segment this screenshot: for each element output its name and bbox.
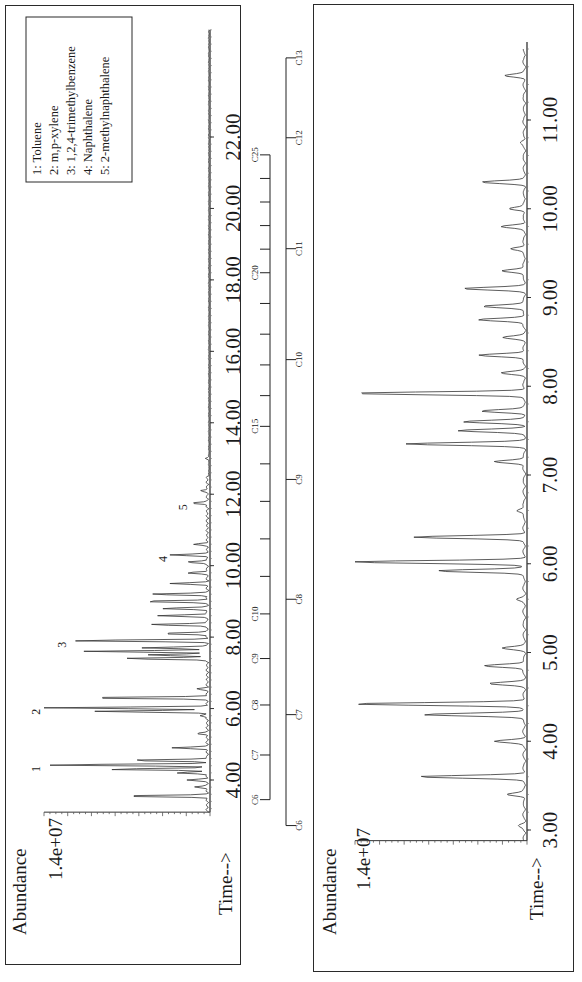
right-carbon-label-C13: C13 bbox=[294, 50, 304, 66]
left-carbon-label-C9: C9 bbox=[250, 653, 260, 664]
right-time-tick-label: 11.00 bbox=[538, 97, 562, 143]
left-time-tick-label: 12.00 bbox=[221, 471, 245, 518]
left-carbon-label-C10: C10 bbox=[250, 606, 260, 622]
left-carbon-label-C8: C8 bbox=[250, 699, 260, 710]
chromatogram-figure: Abundance 1.4e+07 Time--> 1: Toluene 2: … bbox=[0, 0, 582, 982]
left-time-tick-label: 22.00 bbox=[221, 113, 245, 160]
left-carbon-label-C6: C6 bbox=[250, 794, 260, 805]
right-time-tick-label: 6.00 bbox=[538, 545, 562, 582]
left-ymax-label: 1.4e+07 bbox=[45, 818, 66, 880]
right-carbon-label-C12: C12 bbox=[294, 130, 304, 145]
legend-item-5: 5: 2-methylnaphthalene bbox=[98, 56, 112, 175]
right-abundance-label: Abundance bbox=[319, 848, 340, 935]
left-time-tick-label: 10.00 bbox=[221, 542, 245, 589]
right-chromatogram-trace bbox=[355, 49, 526, 841]
left-carbon-label-C25: C25 bbox=[250, 147, 260, 163]
legend-item-4: 4: Naphthalene bbox=[81, 99, 95, 175]
right-carbon-label-C9: C9 bbox=[294, 474, 304, 485]
right-time-tick-label: 9.00 bbox=[538, 279, 562, 316]
right-time-tick-label: 4.00 bbox=[538, 723, 562, 760]
left-time-label: Time--> bbox=[215, 852, 236, 915]
left-time-tick-label: 8.00 bbox=[221, 619, 245, 656]
left-time-tick-label: 6.00 bbox=[221, 690, 245, 727]
left-carbon-label-C15: C15 bbox=[250, 418, 260, 434]
right-carbon-label-C6: C6 bbox=[294, 820, 304, 831]
left-carbon-label-C7: C7 bbox=[250, 749, 260, 760]
peak-label-2: 2 bbox=[29, 709, 43, 715]
right-ymax-label: 1.4e+07 bbox=[353, 828, 374, 890]
peak-label-3: 3 bbox=[55, 642, 69, 648]
left-abundance-label: Abundance bbox=[9, 848, 30, 935]
right-time-tick-label: 5.00 bbox=[538, 634, 562, 671]
right-carbon-label-C10: C10 bbox=[294, 352, 304, 368]
right-carbon-label-C7: C7 bbox=[294, 709, 304, 720]
legend-item-3: 3: 1,2,4-trimethylbenzene bbox=[64, 46, 78, 175]
right-carbon-label-C11: C11 bbox=[294, 241, 304, 256]
left-carbon-label-C20: C20 bbox=[250, 265, 260, 281]
peak-label-5: 5 bbox=[176, 504, 190, 510]
left-time-tick-label: 14.00 bbox=[221, 399, 245, 446]
left-time-tick-label: 16.00 bbox=[221, 328, 245, 375]
peak-label-4: 4 bbox=[156, 556, 170, 562]
left-time-tick-label: 18.00 bbox=[221, 256, 245, 303]
right-time-tick-label: 8.00 bbox=[538, 368, 562, 405]
right-carbon-label-C8: C8 bbox=[294, 594, 304, 605]
legend-item-2: 2: m,p-xylene bbox=[47, 105, 61, 175]
legend: 1: Toluene 2: m,p-xylene 3: 1,2,4-trimet… bbox=[26, 17, 132, 182]
right-time-tick-label: 7.00 bbox=[538, 457, 562, 494]
left-time-tick-label: 4.00 bbox=[221, 762, 245, 799]
right-time-tick-label: 3.00 bbox=[538, 812, 562, 849]
peak-label-1: 1 bbox=[29, 766, 43, 772]
right-time-tick-label: 10.00 bbox=[538, 185, 562, 232]
legend-item-1: 1: Toluene bbox=[30, 122, 44, 175]
left-time-tick-label: 20.00 bbox=[221, 185, 245, 232]
right-time-label: Time--> bbox=[526, 857, 547, 920]
